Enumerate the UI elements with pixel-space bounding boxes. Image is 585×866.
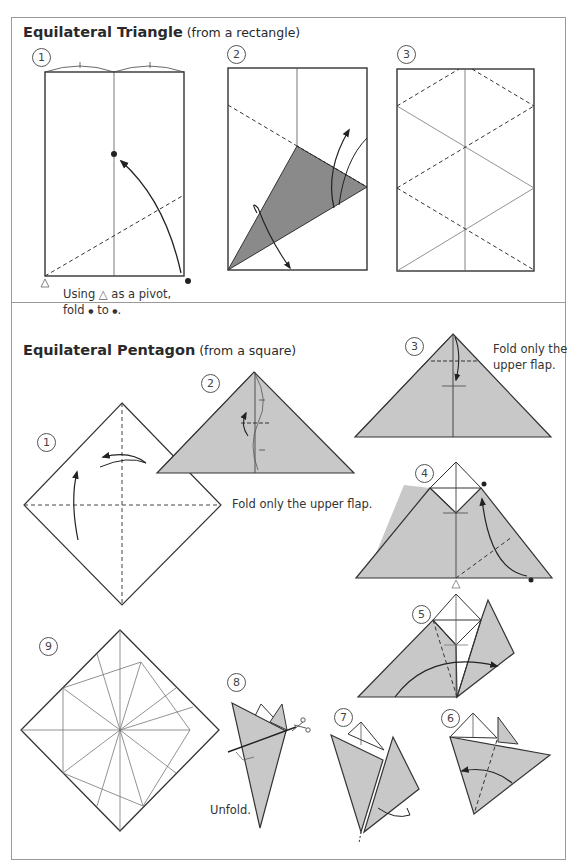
pentagon-step-5-drawing [358,594,514,697]
source-dot-icon [529,578,534,583]
pentagon-step-2-drawing [157,372,354,473]
source-dot-icon [185,278,191,284]
target-dot-icon [111,151,117,157]
pentagon-step-1-drawing [24,403,221,605]
scissors-icon [292,718,310,732]
pentagon-step-6-drawing [450,713,550,814]
triangle-step-3-drawing [397,69,534,271]
pentagon-step-3-drawing [355,334,551,437]
pivot-triangle-icon [452,580,460,588]
pentagon-step-9-drawing [21,630,219,831]
pentagon-step-7-drawing [331,722,419,843]
triangle-step-1-drawing [41,62,191,287]
origami-diagram-art [0,0,585,866]
target-dot-icon [482,482,487,487]
pivot-triangle-icon [41,279,49,287]
triangle-step-2-drawing [228,68,367,270]
pentagon-step-8-drawing [228,703,310,828]
pentagon-step-4-drawing [356,462,552,588]
